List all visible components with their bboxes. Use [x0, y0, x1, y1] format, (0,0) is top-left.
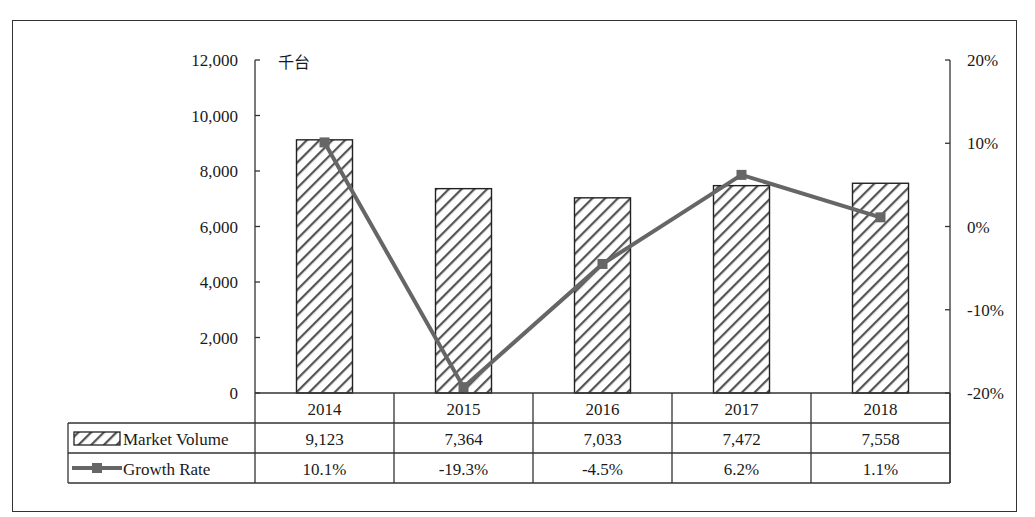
market-volume-legend-label: Market Volume — [123, 430, 229, 449]
growth-rate-value: -4.5% — [582, 460, 623, 479]
category-label: 2015 — [447, 400, 481, 419]
right-tick-label: -10% — [967, 301, 1004, 320]
left-tick-label: 8,000 — [200, 162, 238, 181]
growth-marker-2014 — [320, 137, 330, 147]
growth-rate-legend-marker — [92, 463, 102, 473]
right-tick-label: 10% — [967, 134, 998, 153]
right-tick-label: 0% — [967, 218, 990, 237]
bar-2017 — [714, 186, 770, 393]
growth-rate-value: 6.2% — [724, 460, 759, 479]
market-volume-value: 9,123 — [305, 430, 343, 449]
category-label: 2018 — [864, 400, 898, 419]
left-tick-label: 12,000 — [191, 51, 238, 70]
unit-label: 千台 — [278, 53, 310, 72]
growth-rate-value: -19.3% — [439, 460, 489, 479]
category-label: 2016 — [586, 400, 620, 419]
growth-marker-2017 — [737, 170, 747, 180]
growth-rate-value: 10.1% — [303, 460, 347, 479]
market-volume-value: 7,558 — [861, 430, 899, 449]
market-volume-value: 7,364 — [444, 430, 483, 449]
growth-rate-legend-label: Growth Rate — [123, 460, 210, 479]
combo-chart: 02,0004,0006,0008,00010,00012,000 -20%-1… — [0, 0, 1035, 517]
category-label: 2014 — [308, 400, 343, 419]
right-tick-label: -20% — [967, 384, 1004, 403]
bar-2015 — [436, 189, 492, 393]
growth-marker-2018 — [876, 212, 886, 222]
category-label: 2017 — [725, 400, 760, 419]
right-y-axis: -20%-10%0%10%20% — [945, 51, 1004, 483]
market-volume-value: 7,033 — [583, 430, 621, 449]
growth-marker-2016 — [598, 259, 608, 269]
left-tick-label: 2,000 — [200, 329, 238, 348]
left-tick-label: 10,000 — [191, 107, 238, 126]
left-tick-label: 6,000 — [200, 218, 238, 237]
left-y-axis: 02,0004,0006,0008,00010,00012,000 — [191, 51, 260, 403]
right-tick-label: 20% — [967, 51, 998, 70]
market-volume-legend-icon — [74, 432, 120, 445]
market-volume-value: 7,472 — [722, 430, 760, 449]
growth-rate-value: 1.1% — [863, 460, 898, 479]
growth-marker-2015 — [459, 382, 469, 392]
data-table: 20149,12310.1%20157,364-19.3%20167,033-4… — [68, 393, 950, 483]
left-tick-label: 0 — [230, 384, 239, 403]
bar-2016 — [575, 198, 631, 393]
left-tick-label: 4,000 — [200, 273, 238, 292]
